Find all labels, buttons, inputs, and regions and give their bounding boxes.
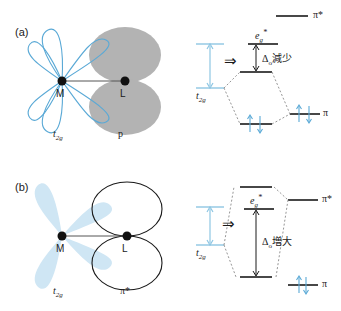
panel-b-transition-arrow-icon: ⇒	[222, 215, 235, 233]
corr-mixed-to-pi	[272, 72, 290, 114]
panel-a-t2g-caption-sub: 2g	[56, 134, 63, 142]
panel-b-pi-star-label: π*	[322, 193, 332, 204]
panel-b-t2g-b-sub: 2g	[199, 253, 206, 261]
delta-o-arrow-head-up	[253, 210, 259, 215]
t2g-lobe-upper-right	[62, 202, 112, 236]
panel-a-t2g-bracket-label: t2g	[196, 90, 206, 104]
electron-down-2-head	[307, 119, 312, 123]
panel-a-t2g-caption: t2g	[53, 128, 63, 142]
panel-b-t2g-bracket-label: t2g	[196, 247, 206, 261]
panel-b-ligand-label: L	[122, 243, 128, 254]
electron-down-1-head	[258, 129, 263, 133]
panel-b-delta-label: Δo増大	[262, 233, 292, 250]
panel-a-metal-label: M	[56, 88, 64, 99]
corr-t2g-to-lower	[224, 245, 236, 277]
corr-upper-to-ligand	[274, 187, 288, 200]
t2g-lobe-upper-left	[35, 183, 62, 236]
delta-o-arrow-head-down	[253, 271, 259, 276]
electron-pair-bonding	[248, 115, 263, 133]
panel-a-transition-arrow-icon: ⇒	[224, 52, 237, 70]
electron-pair-pi	[297, 276, 309, 294]
panel-a-ligand-label: L	[120, 88, 126, 99]
ligand-atom-dot	[121, 77, 130, 86]
corr-t2g-to-bonding	[224, 88, 240, 124]
panel-b-metal-label: M	[56, 243, 64, 254]
panel-b-orbital-diagram	[0, 155, 190, 311]
panel-b-eg-sup: *	[258, 193, 262, 202]
corr-t2g-to-mixed	[224, 72, 240, 88]
ligand-atom-dot	[123, 232, 132, 241]
electron-up-2-head	[297, 105, 302, 109]
delta-o-arrow-head-down	[253, 66, 259, 71]
t2g-lobe-upper-left-b	[28, 42, 62, 81]
metal-atom-dot	[58, 77, 67, 86]
panel-a-orbital-diagram	[0, 0, 190, 156]
panel-a-delta-label: Δo減少	[262, 50, 292, 67]
t2g-lobe-upper-left	[42, 29, 62, 81]
electron-pair-pi	[297, 105, 312, 123]
panel-b-pi-label: π	[322, 278, 327, 289]
panel-b-t2g-caption-sub: 2g	[56, 291, 63, 299]
panel-b-eg-sub: g	[254, 201, 258, 209]
panel-b: (b) M L t2g π*	[0, 155, 341, 311]
panel-b-delta-text: 増大	[272, 236, 292, 247]
electron-up-1-head	[297, 276, 302, 280]
t2g-lobe-lower-left-b	[28, 81, 62, 120]
panel-a-eg-sub: g	[259, 36, 263, 44]
delta-o-arrow-head-up	[253, 45, 259, 50]
panel-a-pi-label: π	[323, 107, 328, 118]
panel-a-p-caption: p	[118, 128, 123, 139]
panel-b-eg-star-label: eg*	[250, 193, 262, 209]
panel-a-delta-text: 減少	[272, 53, 292, 64]
panel-b-pi-star-caption: π*	[120, 285, 130, 296]
t2g-bracket-arrow-up	[207, 44, 213, 49]
t2g-bracket-arrow-down	[207, 240, 213, 245]
metal-atom-dot	[58, 232, 67, 241]
panel-a-free-pi-star-label: π*	[313, 9, 323, 20]
panel-a-eg-sup: *	[263, 28, 267, 37]
panel-a-eg-star-label: eg*	[255, 28, 267, 44]
electron-up-1-head	[248, 115, 253, 119]
corr-bonding-to-pi	[272, 114, 290, 124]
correlation-lines	[224, 72, 290, 124]
t2g-lobe-lower-right	[62, 236, 112, 270]
panel-a: (a) M L t2g p	[0, 0, 341, 156]
panel-b-t2g-caption: t2g	[53, 285, 63, 299]
panel-a-t2g-b-sub: 2g	[199, 96, 206, 104]
t2g-bracket-arrow-down	[207, 83, 213, 88]
t2g-bracket-arrow-up	[207, 207, 213, 212]
electron-down-1-head	[304, 290, 309, 294]
